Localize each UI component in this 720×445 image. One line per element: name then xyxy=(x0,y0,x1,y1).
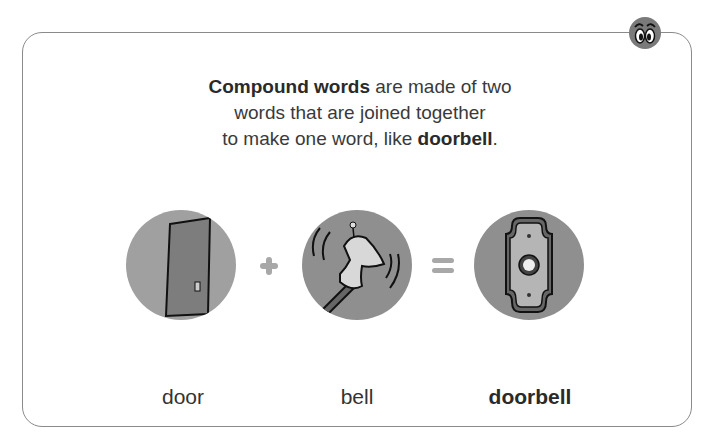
intro-line3: to make one word, like xyxy=(222,128,417,149)
intro-line1: are made of two xyxy=(370,76,512,97)
intro-line2: words that are joined together xyxy=(0,100,720,126)
example-word: doorbell xyxy=(418,128,493,149)
bell-image xyxy=(302,210,412,320)
word-door: door xyxy=(162,385,204,409)
eyes-mascot-icon xyxy=(628,16,662,50)
bell-icon xyxy=(302,210,412,320)
word-bell: bell xyxy=(341,385,374,409)
word-doorbell: doorbell xyxy=(489,385,572,409)
doorbell-icon xyxy=(474,210,584,320)
door-icon xyxy=(126,210,236,320)
doorbell-image xyxy=(474,210,584,320)
term-compound-words: Compound words xyxy=(208,76,369,97)
intro-text: Compound words are made of two words tha… xyxy=(0,74,720,152)
equals-icon xyxy=(432,257,454,275)
plus-icon xyxy=(258,255,280,277)
door-image xyxy=(126,210,236,320)
intro-period: . xyxy=(493,128,498,149)
